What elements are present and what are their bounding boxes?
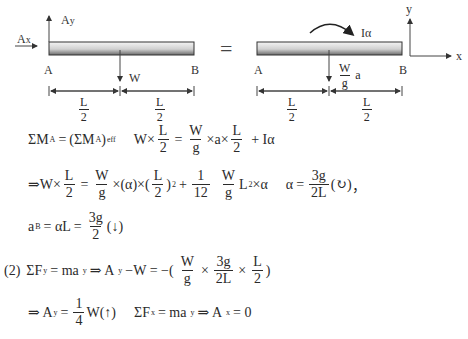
equation-force-y: (2) ΣFy = may ⇒ Ay −W = −( Wg × 3g2L × L… [4, 255, 270, 286]
dimension-line-left [49, 86, 194, 96]
inertia-force-label: Wg a [335, 62, 361, 89]
equation-acceleration-b: aB = αL = 3g2 (↓) [28, 211, 123, 242]
equivalence-sign: = [220, 36, 232, 62]
dim-label-right-1: L2 [284, 96, 299, 123]
point-a-label-right: A [254, 64, 263, 76]
y-axis-label: y [406, 3, 412, 15]
down-arrow-icon: (↓) [107, 219, 123, 235]
ay-label: Ay [61, 14, 75, 27]
equation-moment-balance: ΣMA = (ΣMA)eff W× L2 = Wg ×a× L2 + Iα [28, 124, 275, 155]
clockwise-icon: (↻) [331, 176, 352, 193]
point-b-label-right: B [399, 64, 407, 76]
x-axis-label: x [456, 50, 462, 62]
dim-label-left-2: L2 [152, 96, 167, 123]
equation-reactions: ⇒ Ay = 14 W(↑) ΣFx = may ⇒ Ax = 0 [28, 297, 254, 328]
equation-alpha: ⇒W× L2 = Wg ×(α)×( L2 )2 + 112 Wg L2 ×α … [28, 169, 366, 200]
point-b-label: B [191, 64, 199, 76]
dimension-line-right [257, 86, 402, 96]
weight-label: W [129, 72, 140, 84]
point-a-label: A [44, 64, 53, 76]
dim-label-left-1: L2 [76, 96, 91, 123]
ax-label: Ax [17, 33, 31, 46]
moment-label: Iα [361, 27, 371, 39]
beam-left [49, 42, 194, 55]
dim-label-right-2: L2 [359, 96, 374, 123]
up-arrow-icon: W(↑) [86, 305, 116, 321]
moment-arrow-icon [310, 24, 352, 34]
